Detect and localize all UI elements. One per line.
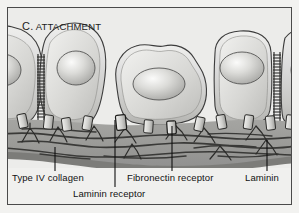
page-title: C. ATTACHMENT bbox=[22, 20, 101, 32]
receptor bbox=[243, 115, 254, 130]
receptor bbox=[216, 114, 227, 129]
cell-two bbox=[40, 23, 106, 126]
label-fibronectin-receptor: Fibronectin receptor bbox=[127, 172, 213, 183]
receptor bbox=[265, 116, 275, 131]
receptor bbox=[43, 115, 53, 130]
figure-panel: C. ATTACHMENT Type IV collagen Laminin r… bbox=[0, 0, 299, 213]
nucleus bbox=[133, 68, 185, 100]
cell-right bbox=[214, 31, 271, 125]
receptor-laminin bbox=[115, 115, 127, 131]
label-laminin-receptor: Laminin receptor bbox=[73, 188, 145, 199]
cell-middle bbox=[116, 45, 207, 125]
receptor bbox=[61, 117, 72, 131]
label-type-iv-collagen: Type IV collagen bbox=[12, 172, 84, 183]
receptor bbox=[144, 120, 154, 134]
nucleus bbox=[57, 51, 95, 85]
panel-letter: C. bbox=[22, 20, 33, 32]
receptor bbox=[82, 115, 93, 130]
receptor bbox=[285, 115, 291, 130]
label-laminin: Laminin bbox=[245, 172, 279, 183]
panel-title-text: ATTACHMENT bbox=[33, 21, 101, 32]
nucleus bbox=[220, 52, 264, 84]
